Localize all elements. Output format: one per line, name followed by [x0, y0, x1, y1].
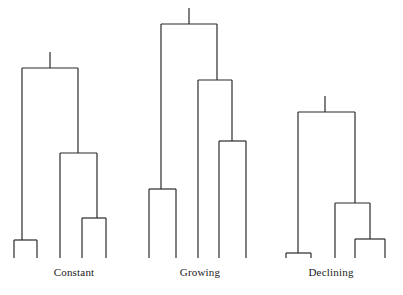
panel-label-growing: Growing	[180, 266, 221, 278]
panel-label-constant: Constant	[54, 266, 95, 278]
coalescent-genealogy-figure: Constant Growing Declining	[0, 0, 403, 295]
panel-label-declining: Declining	[308, 266, 353, 278]
tree-canvas	[0, 0, 403, 295]
trees-group	[14, 8, 385, 258]
